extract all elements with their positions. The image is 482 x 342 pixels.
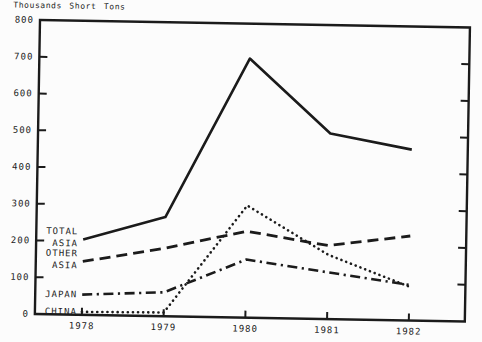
plot-area: 0100200300400500600700800197819791980198… [0,0,482,342]
chart-page: Thousands Short Tons 0100200300400500600… [0,0,482,342]
series-label-japan: JAPAN [45,289,77,300]
x-tick-label: 1979 [150,322,176,332]
y-tick-label: 100 [10,272,29,282]
y-tick-label: 300 [11,198,30,208]
y-tick-label: 0 [22,309,29,319]
series-label-other-asia-line1: OTHER [46,248,78,259]
y-tick-label: 600 [13,88,32,98]
y-tick-label: 700 [14,51,33,61]
y-tick-label: 800 [15,15,34,25]
series-line-total-asia [83,56,413,245]
series-line-japan [82,257,410,301]
x-tick-label: 1978 [69,321,95,331]
series-label-other-asia-line2: ASIA [52,260,78,270]
x-tick-label: 1980 [232,323,258,333]
series-label-total-asia-line2: ASIA [52,238,78,248]
series-label-total-asia-line1: TOTAL [46,226,78,237]
x-tick-label: 1981 [314,325,340,335]
y-tick-label: 500 [13,125,32,135]
plot-frame [35,20,470,321]
scan-tilt-wrapper: Thousands Short Tons 0100200300400500600… [0,0,482,342]
x-tick-label: 1982 [396,326,422,336]
series-label-china: CHINA [45,306,77,317]
y-tick-label: 400 [12,162,31,172]
y-tick-label: 200 [11,235,30,245]
series-line-other-asia [83,228,411,267]
